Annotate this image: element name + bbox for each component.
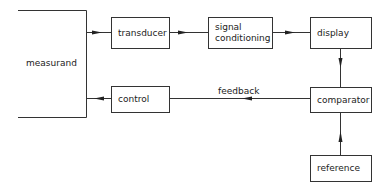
- arrow-transducer-to-signal-conditioning: [170, 31, 208, 35]
- arrow-comparator-to-control: [170, 97, 310, 101]
- signal-conditioning-label-line1: signal: [215, 22, 242, 33]
- feedback-label: feedback: [218, 86, 259, 97]
- transducer-label: transducer: [118, 28, 167, 39]
- arrow-display-to-comparator: [339, 49, 343, 87]
- arrow-control-to-measurand: [87, 97, 112, 101]
- transducer-block: transducer: [111, 17, 170, 49]
- reference-block: reference: [310, 155, 372, 182]
- measurand-label: measurand: [26, 58, 77, 69]
- control-label: control: [118, 94, 149, 105]
- comparator-block: comparator: [310, 87, 372, 113]
- control-block: control: [111, 86, 170, 113]
- signal-conditioning-label-line2: conditioning: [215, 33, 271, 44]
- arrow-signal-conditioning-to-display: [273, 31, 310, 35]
- reference-label: reference: [317, 163, 360, 174]
- display-block: display: [310, 17, 372, 49]
- arrow-reference-to-comparator: [339, 112, 343, 155]
- comparator-label: comparator: [317, 95, 369, 106]
- signal-conditioning-block: signal conditioning: [208, 17, 273, 49]
- arrow-measurand-to-transducer: [87, 31, 112, 35]
- display-label: display: [317, 28, 349, 39]
